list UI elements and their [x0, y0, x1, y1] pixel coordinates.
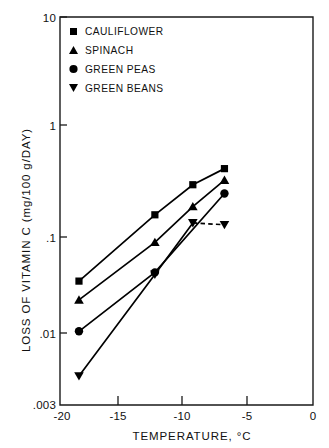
legend-label-cauliflower: CAULIFLOWER	[85, 26, 164, 37]
data-point-green-peas-0	[75, 327, 83, 335]
x-axis-title: TEMPERATURE, °C	[133, 430, 252, 442]
circle-marker-icon	[69, 65, 77, 73]
x-tick-label-minus15: -15	[109, 410, 126, 422]
square-marker-icon	[70, 28, 77, 35]
data-point-green-peas-2	[220, 189, 228, 197]
data-point-cauliflower-2	[189, 181, 196, 188]
legend-entry-cauliflower: CAULIFLOWER	[70, 26, 164, 37]
y-tick-label-1: 1	[49, 120, 56, 132]
chart-canvas: 10 1 .1 .01 .003 -20 -15 -10 -5 0 TEMPER…	[0, 0, 329, 448]
x-tick-label-minus10: -10	[173, 410, 190, 422]
vitamin-c-loss-chart: 10 1 .1 .01 .003 -20 -15 -10 -5 0 TEMPER…	[0, 0, 329, 448]
chart-background	[0, 0, 329, 448]
data-point-cauliflower-3	[221, 165, 228, 172]
y-axis-title: LOSS OF VITAMIN C (mg/100 g/DAY)	[20, 128, 32, 352]
data-point-cauliflower-0	[75, 278, 82, 285]
data-point-cauliflower-1	[151, 211, 158, 218]
legend-label-green-peas: GREEN PEAS	[85, 64, 156, 75]
legend-label-green-beans: GREEN BEANS	[85, 83, 164, 94]
y-tick-label-10: 10	[43, 12, 56, 24]
legend-label-spinach: SPINACH	[85, 45, 133, 56]
x-tick-label-0: 0	[310, 410, 317, 422]
x-tick-label-minus20: -20	[53, 410, 70, 422]
x-tick-label-minus5: -5	[242, 410, 253, 422]
y-tick-label-0-1: .1	[46, 232, 56, 244]
y-tick-label-0-01: .01	[39, 328, 56, 340]
